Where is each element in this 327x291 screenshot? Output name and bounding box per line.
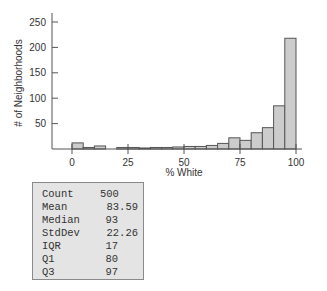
stats-label: IQR: [42, 240, 99, 253]
y-tick-label: 250: [29, 17, 46, 28]
histogram-bar: [206, 145, 217, 149]
stats-row-median: Median93: [42, 214, 143, 227]
y-axis-title: # of Neighborhoods: [13, 39, 24, 126]
stats-label: Count: [42, 188, 100, 201]
stats-label: Q1: [42, 253, 99, 266]
stats-row-q1: Q180: [42, 253, 143, 266]
stats-row-stddev: StdDev22.26: [42, 227, 143, 240]
histogram-chart: 50100150200250 0255075100 # of Neighborh…: [0, 0, 327, 180]
stats-label: Q3: [42, 266, 99, 279]
x-tick-label: 75: [234, 157, 246, 168]
histogram-bar: [72, 143, 83, 149]
x-tick-label: 100: [288, 157, 305, 168]
x-tick-label: 0: [69, 157, 75, 168]
summary-statistics-box: Count500Mean83.59Median93StdDev22.26IQR1…: [32, 182, 144, 280]
histogram-bar: [285, 38, 296, 149]
stats-label: StdDev: [42, 227, 100, 240]
stats-row-iqr: IQR17: [42, 240, 143, 253]
histogram-bars: [72, 38, 296, 149]
stats-value: 80: [99, 253, 143, 266]
y-tick-label: 150: [29, 67, 46, 78]
histogram-bar: [251, 133, 262, 149]
x-axis-title: % White: [165, 167, 203, 178]
stats-value: 93: [99, 214, 143, 227]
stats-row-mean: Mean83.59: [42, 201, 143, 214]
stats-row-count: Count500: [42, 188, 143, 201]
stats-value: 83.59: [100, 201, 138, 214]
stats-value: 17: [99, 240, 143, 253]
y-tick-label: 200: [29, 42, 46, 53]
histogram-bar: [240, 140, 251, 149]
x-tick-label: 25: [122, 157, 134, 168]
stats-value: 500: [100, 188, 138, 201]
stats-label: Mean: [42, 201, 100, 214]
y-axis-ticks: 50100150200250: [29, 17, 58, 130]
histogram-bar: [274, 106, 285, 149]
histogram-bar: [218, 143, 229, 149]
stats-value: 22.26: [100, 227, 138, 240]
stats-value: 97: [99, 266, 143, 279]
y-tick-label: 50: [35, 118, 47, 129]
histogram-bar: [229, 138, 240, 149]
histogram-bar: [262, 128, 273, 149]
stats-label: Median: [42, 214, 99, 227]
stats-row-q3: Q397: [42, 266, 143, 279]
y-tick-label: 100: [29, 93, 46, 104]
